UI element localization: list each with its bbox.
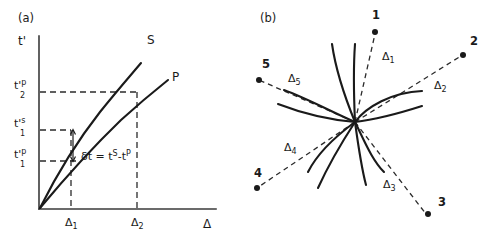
y-tick-t1p-sup: p [21,147,26,156]
panel-a-canvas: (a) t' Δ S P [0,0,242,239]
s-travel-time-curve [40,63,141,208]
x-tick-delta2: Δ2 [131,216,144,231]
panel-a-label: (a) [18,11,34,25]
ray-curve-1b [332,44,355,122]
p-curve-label: P [172,70,179,84]
delta-label-1: Δ1 [382,50,395,65]
delta-label-4-sub: 4 [292,147,297,156]
station-dot-1[interactable] [372,29,378,35]
station-label-5: 5 [262,57,270,71]
ray-curve-2a [355,91,422,122]
svg-text:t'p: t'p [14,147,26,161]
delta-t-symbol: δt [81,150,93,163]
panel-b-canvas: (b) 1 2 3 [242,0,484,239]
station-label-1: 1 [372,8,380,22]
ray-curve-2b [355,106,422,122]
x-tick-delta1-sub: 1 [73,222,78,231]
ray-curve-1a [354,44,355,122]
figure-root: (a) t' Δ S P [0,0,484,239]
ray-curve-5a [278,104,355,122]
y-tick-t2p: t'p 2 [14,78,26,100]
y-tick-t2p-sub: 2 [20,91,25,100]
y-tick-t1s: t's 1 [14,116,26,138]
station-dot-3[interactable] [425,211,431,217]
delta-label-1-sub: 1 [390,56,395,65]
x-tick-delta1: Δ1 [65,216,78,231]
y-tick-t2p-sup: p [21,78,26,87]
p-travel-time-curve [40,80,168,208]
delta-label-2: Δ2 [434,79,447,94]
delta-label-3: Δ3 [383,178,396,193]
ray-curve-4a [318,122,355,188]
ray-dash-1 [355,34,375,122]
svg-text:t'p: t'p [14,78,26,92]
svg-text:t's: t's [14,116,26,130]
delta-label-5-sub: 5 [296,78,301,87]
station-label-2: 2 [470,34,478,48]
delta-t-equals: = [96,150,105,163]
y-tick-t1p-sub: 1 [20,160,25,169]
ray-dash-3 [355,122,426,214]
y-tick-t1p: t'p 1 [14,147,26,169]
delta-label-2-sub: 2 [442,85,447,94]
panel-a: (a) t' Δ S P [0,0,242,239]
panel-b-label: (b) [260,11,276,25]
delta-t-term2-sup: P [126,149,131,158]
delta-label-3-sub: 3 [391,184,396,193]
station-label-3: 3 [438,195,446,209]
station-dot-2[interactable] [460,52,466,58]
station-dot-4[interactable] [254,185,260,191]
delta-t-annotation: δt = tS-tP [81,149,131,163]
x-tick-delta2-sub: 2 [139,222,144,231]
station-dot-5[interactable] [256,77,262,83]
x-axis-label: Δ [203,217,212,231]
ray-curve-4b [308,122,355,172]
s-curve-label: S [147,33,155,47]
delta-label-4: Δ4 [284,141,297,156]
y-axis-label: t' [18,34,26,48]
panel-b: (b) 1 2 3 [242,0,484,239]
ray-dash-4 [257,122,355,188]
y-tick-t1s-sub: 1 [20,129,25,138]
delta-label-5: Δ5 [288,72,301,87]
station-label-4: 4 [254,166,262,180]
y-tick-t1s-sup: s [21,116,25,125]
